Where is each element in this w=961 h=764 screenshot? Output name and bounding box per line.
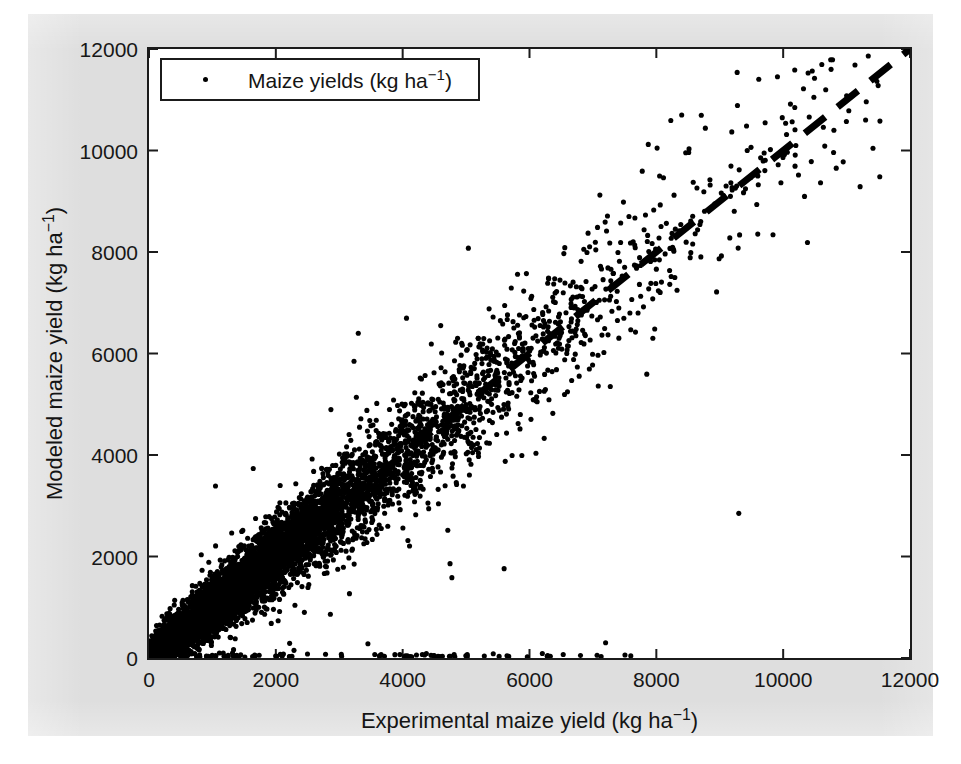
- scatter-plot-canvas: [149, 49, 910, 658]
- x-axis-title: Experimental maize yield (kg ha−1): [147, 706, 912, 734]
- legend[interactable]: Maize yields (kg ha−1): [160, 58, 480, 101]
- legend-label-text: Maize yields (kg ha: [248, 69, 428, 92]
- x-tick-label: 4000: [379, 669, 426, 690]
- y-axis-title-exponent: −1: [40, 214, 57, 232]
- legend-label-exponent: −1: [428, 66, 445, 83]
- x-axis-title-text: Experimental maize yield (kg ha: [361, 708, 673, 733]
- legend-entry-label: Maize yields (kg ha−1): [248, 66, 452, 93]
- x-axis-title-close: ): [691, 708, 698, 733]
- x-tick-label: 0: [143, 669, 155, 690]
- plot-area: [147, 47, 912, 660]
- x-tick-label: 10000: [754, 669, 812, 690]
- y-axis-title-close: ): [42, 207, 67, 214]
- dot-marker-icon: [203, 77, 208, 82]
- y-axis-title: Modeled maize yield (kg ha−1): [40, 47, 68, 660]
- x-tick-label: 2000: [252, 669, 299, 690]
- x-tick-label: 8000: [633, 669, 680, 690]
- x-axis-title-exponent: −1: [673, 706, 691, 723]
- legend-label-close: ): [445, 69, 452, 92]
- x-tick-label: 6000: [506, 669, 553, 690]
- figure-screenshot: 020004000600080001000012000 020004000600…: [0, 0, 961, 764]
- legend-marker-cell: [162, 77, 248, 82]
- y-axis-title-text: Modeled maize yield (kg ha: [42, 232, 67, 500]
- x-tick-label: 12000: [881, 669, 939, 690]
